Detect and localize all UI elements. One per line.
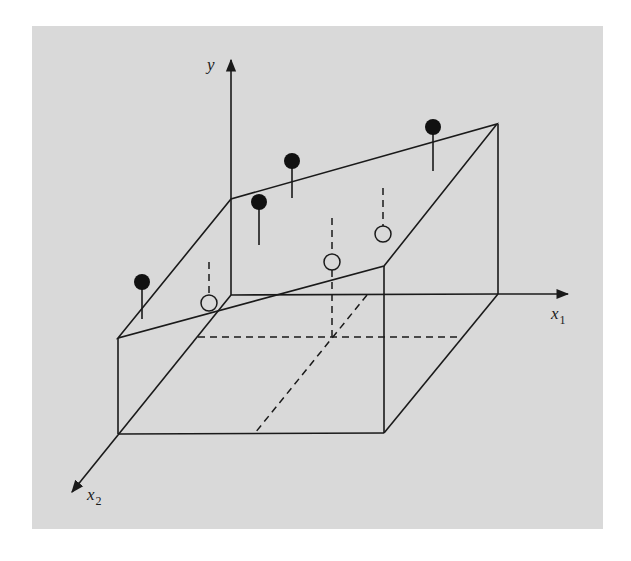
- predicted-point: [324, 254, 340, 270]
- observed-point: [284, 153, 300, 169]
- predicted-point: [201, 295, 217, 311]
- predicted-point: [375, 226, 391, 242]
- observed-point: [134, 274, 150, 290]
- observed-point: [425, 119, 441, 135]
- figure-background: [32, 26, 603, 529]
- y-axis-label: y: [205, 55, 215, 74]
- regression-plane-diagram: y x1 x2: [0, 0, 631, 561]
- observed-point: [251, 194, 267, 210]
